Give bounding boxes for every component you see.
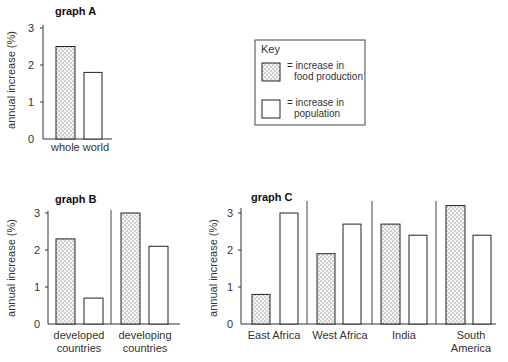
graph-b-tick-2: 2 xyxy=(34,244,40,256)
legend-key: Key = increase in food production = incr… xyxy=(255,40,365,125)
graph-c-tick-0: 0 xyxy=(227,318,233,330)
graph-a-tick-1: 1 xyxy=(28,96,34,108)
graph-a-bar-food-whole-world xyxy=(56,47,75,140)
graph-c-title: graph C xyxy=(251,191,293,203)
graph-b-category-developing-line1: developing xyxy=(118,329,171,341)
graph-b-title: graph B xyxy=(55,193,97,205)
graph-c-bar-population-india xyxy=(409,235,427,324)
graph-a-category-label: whole world xyxy=(50,141,109,153)
graph-b-category-developing-line2: countries xyxy=(123,342,168,354)
graph-b-bar-population-developing xyxy=(149,246,168,324)
graph-b-category-developed-line2: countries xyxy=(57,342,102,354)
graph-c-bar-food-east-africa xyxy=(252,294,270,324)
legend-swatch-food xyxy=(262,63,280,81)
graph-c: graph C annual increase (%) 3 2 1 0 East… xyxy=(207,191,496,354)
graph-c-category-south-america-line1: South xyxy=(457,329,486,341)
graph-a-bar-population-whole-world xyxy=(84,72,102,139)
graph-a-title: graph A xyxy=(55,5,96,17)
graph-c-tick-3: 3 xyxy=(227,207,233,219)
graph-c-bar-population-south-america xyxy=(473,235,491,324)
graph-a-tick-2: 2 xyxy=(28,59,34,71)
chart-canvas: graph A annual increase (%) 3 2 1 0 whol… xyxy=(0,0,508,362)
graph-c-y-axis-label: annual increase (%) xyxy=(207,219,219,317)
graph-b-bar-food-developed xyxy=(56,239,75,324)
graph-c-bar-population-west-africa xyxy=(343,224,361,324)
graph-c-tick-2: 2 xyxy=(227,244,233,256)
graph-c-bar-population-east-africa xyxy=(280,213,298,324)
graph-b-tick-0: 0 xyxy=(34,318,40,330)
legend-food-line2: food production xyxy=(294,71,363,82)
graph-c-bar-food-south-america xyxy=(446,206,465,324)
graph-c-tick-1: 1 xyxy=(227,281,233,293)
graph-a: graph A annual increase (%) 3 2 1 0 whol… xyxy=(5,5,112,153)
graph-c-category-south-america-line2: America xyxy=(451,342,492,354)
legend-swatch-population xyxy=(262,100,280,118)
graph-c-category-east-africa: East Africa xyxy=(248,329,301,341)
graph-b-tick-3: 3 xyxy=(34,207,40,219)
graph-c-category-india: India xyxy=(392,329,417,341)
legend-population-line1: = increase in xyxy=(287,97,344,108)
legend-title: Key xyxy=(261,43,280,55)
graph-b-bar-food-developing xyxy=(121,213,140,324)
legend-food-line1: = increase in xyxy=(287,60,344,71)
graph-b-bar-population-developed xyxy=(84,298,103,324)
graph-c-category-west-africa: West Africa xyxy=(312,329,368,341)
graph-b: graph B annual increase (%) 3 2 1 0 deve… xyxy=(5,193,180,354)
graph-b-category-developed-line1: developed xyxy=(54,329,105,341)
graph-b-y-axis-label: annual increase (%) xyxy=(5,219,17,317)
graph-a-tick-3: 3 xyxy=(28,22,34,34)
graph-a-tick-0: 0 xyxy=(28,133,34,145)
graph-b-tick-1: 1 xyxy=(34,281,40,293)
graph-c-bar-food-india xyxy=(381,224,400,324)
graph-c-bar-food-west-africa xyxy=(317,254,335,324)
legend-population-line2: population xyxy=(294,108,340,119)
graph-a-y-axis-label: annual increase (%) xyxy=(5,31,17,129)
